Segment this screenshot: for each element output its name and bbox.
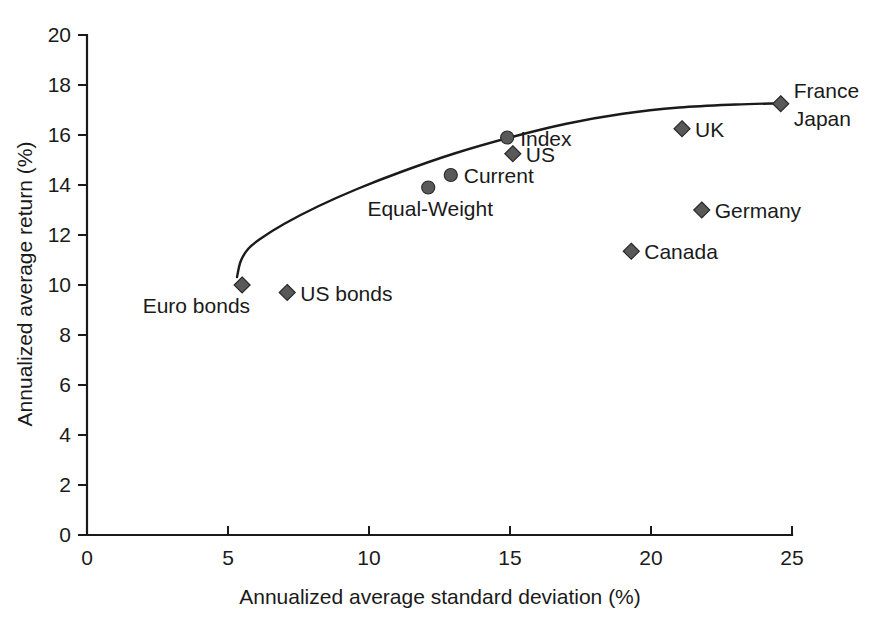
y-axis-tick-labels: 02468101214161820 (48, 23, 72, 546)
point-label-germany: Germany (715, 199, 802, 222)
y-axis-title: Annualized average return (%) (13, 142, 36, 427)
x-axis-tick-labels: 0510152025 (81, 546, 804, 569)
y-tick-label-0: 0 (59, 523, 71, 546)
point-label-uk: UK (695, 118, 724, 141)
y-tick-label-16: 16 (48, 123, 71, 146)
y-tick-label-6: 6 (59, 373, 71, 396)
y-tick-label-4: 4 (59, 423, 71, 446)
marker-germany[interactable] (694, 202, 710, 218)
x-tick-label-25: 25 (780, 546, 803, 569)
x-tick-label-0: 0 (81, 546, 93, 569)
x-tick-label-20: 20 (639, 546, 662, 569)
axis-lines (87, 35, 792, 535)
marker-euro-bonds[interactable] (234, 277, 250, 293)
point-label-euro-bonds: Euro bonds (143, 294, 250, 317)
x-tick-label-15: 15 (498, 546, 521, 569)
point-label-us: US (526, 143, 555, 166)
marker-canada[interactable] (623, 243, 639, 259)
y-tick-label-20: 20 (48, 23, 71, 46)
x-tick-label-10: 10 (357, 546, 380, 569)
point-label-france: France (794, 79, 859, 102)
point-label-equal-weight: Equal-Weight (367, 197, 493, 220)
point-label-current: Current (464, 164, 534, 187)
y-tick-label-8: 8 (59, 323, 71, 346)
x-tick-label-5: 5 (222, 546, 234, 569)
y-tick-label-18: 18 (48, 73, 71, 96)
chart-canvas: 02468101214161820 0510152025 Euro bondsU… (0, 0, 875, 629)
data-point-labels: Euro bondsUS bondsEqual-WeightCurrentInd… (143, 79, 859, 317)
y-tick-label-10: 10 (48, 273, 71, 296)
marker-uk[interactable] (674, 121, 690, 137)
y-tick-label-12: 12 (48, 223, 71, 246)
point-label-japan: Japan (794, 107, 851, 130)
marker-current[interactable] (444, 169, 457, 182)
marker-us[interactable] (505, 146, 521, 162)
marker-equal-weight[interactable] (422, 181, 435, 194)
point-label-canada: Canada (644, 240, 718, 263)
marker-us-bonds[interactable] (279, 285, 295, 301)
tick-marks (78, 35, 792, 535)
marker-france[interactable] (773, 96, 789, 112)
marker-index[interactable] (501, 131, 514, 144)
point-label-us-bonds: US bonds (300, 282, 392, 305)
x-axis-title: Annualized average standard deviation (%… (239, 585, 641, 608)
y-tick-label-2: 2 (59, 473, 71, 496)
risk-return-scatter-figure: 02468101214161820 0510152025 Euro bondsU… (0, 0, 875, 629)
axes (87, 35, 792, 535)
y-tick-label-14: 14 (48, 173, 72, 196)
